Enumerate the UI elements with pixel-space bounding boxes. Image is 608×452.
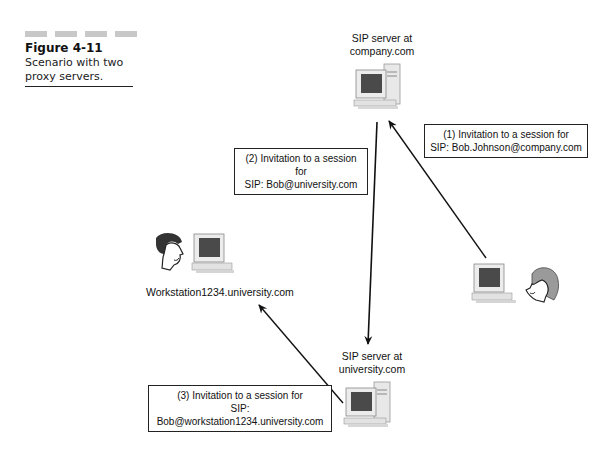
workstation-label: Workstation1234.university.com bbox=[146, 286, 296, 299]
woman-face-icon bbox=[522, 266, 562, 308]
message-box-1: (1) Invitation to a session for SIP: Bob… bbox=[424, 124, 588, 158]
desktop-computer-icon bbox=[470, 262, 516, 306]
university-server-label: SIP server at university.com bbox=[322, 350, 422, 376]
message-box-3: (3) Invitation to a session for SIP: Bob… bbox=[148, 385, 332, 432]
message-box-2: (2) Invitation to a session for SIP: Bob… bbox=[234, 148, 368, 195]
desktop-computer-icon bbox=[190, 232, 236, 276]
server-computer-icon bbox=[342, 380, 402, 432]
arrow-2 bbox=[368, 122, 377, 344]
man-face-icon bbox=[150, 232, 188, 272]
company-server-label: SIP server at company.com bbox=[332, 32, 432, 58]
server-computer-icon bbox=[352, 62, 412, 112]
